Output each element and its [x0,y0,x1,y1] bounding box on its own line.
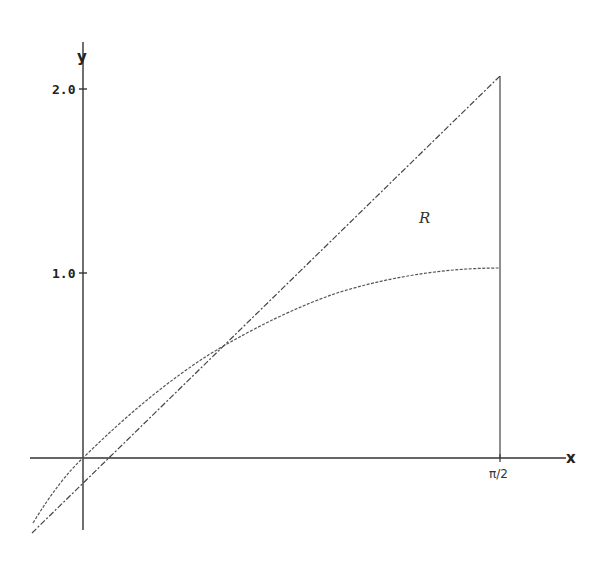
y-axis-label: y [77,48,87,66]
region-label-r: R [418,209,430,227]
y-tick-label-2: 2.0 [52,82,76,97]
line-series [32,76,500,533]
curve-series [33,268,500,523]
x-axis-label: x [566,449,576,467]
x-tick-label-pi2: π/2 [489,467,508,481]
y-tick-label-1: 1.0 [52,266,76,281]
chart: y 2.0 1.0 x π/2 R [0,0,589,561]
